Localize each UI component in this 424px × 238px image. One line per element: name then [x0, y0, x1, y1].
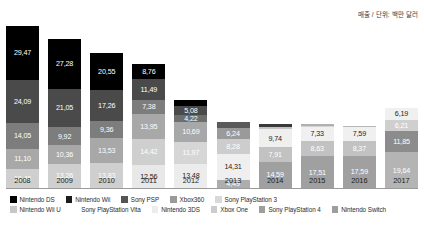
bar-segment: 10,36 — [48, 145, 81, 164]
legend-item[interactable]: Sony PlayStation Vita — [72, 206, 141, 213]
segment-value-label: 27,28 — [56, 60, 73, 67]
x-axis-line — [6, 188, 418, 189]
legend-swatch-icon — [10, 196, 17, 203]
plot-area: 29,4724,0914,0511,1010,4627,2821,059,921… — [6, 22, 418, 188]
segment-value-label: 8,76 — [142, 68, 155, 75]
unit-note: 매출 / 단위: 백만 달러 — [358, 9, 418, 19]
segment-value-label: 10,36 — [56, 151, 73, 158]
bar-column-2008: 29,4724,0914,0511,1010,46 — [6, 22, 39, 188]
bar-segment: 9,36 — [90, 121, 123, 138]
legend-label: Nintendo 3DS — [161, 206, 200, 213]
legend-item[interactable]: Sony PlayStation 4 — [259, 206, 321, 213]
bar-segment: 8,76 — [132, 64, 165, 80]
bar-segment: 4,22 — [174, 115, 207, 123]
legend-item[interactable]: Nintendo Wii — [66, 196, 111, 203]
legend-label: Sony PlayStation 3 — [225, 196, 277, 203]
legend-row-1: Nintendo DSNintendo WiiSony PSPXbox360So… — [10, 196, 418, 203]
bar-segment: 7,59 — [343, 127, 376, 141]
segment-value-label: 14,05 — [14, 132, 31, 139]
x-axis-label-2009: 2009 — [48, 176, 81, 185]
bar-segment: 6,19 — [385, 108, 418, 119]
segment-value-label: 9,36 — [100, 126, 113, 133]
legend-swatch-icon — [152, 206, 159, 213]
legend-label: Sony PSP — [131, 196, 159, 203]
x-axis-labels: 2008200920102011201220132014201520162017 — [6, 176, 418, 185]
bar-column-2016: 7,598,3717,59 — [343, 22, 376, 188]
segment-value-label: 13,95 — [140, 123, 157, 130]
segment-value-label: 7,38 — [142, 103, 155, 110]
legend-swatch-icon — [215, 196, 222, 203]
segment-value-label: 17,51 — [309, 169, 326, 176]
x-axis-label-2016: 2016 — [343, 176, 376, 185]
segment-value-label: 6,19 — [395, 110, 408, 117]
bar-segment: 9,92 — [48, 127, 81, 145]
legend-swatch-icon — [121, 196, 128, 203]
bar-column-2017: 6,196,2111,8519,64 — [385, 22, 418, 188]
bar-segment: 7,33 — [301, 127, 334, 140]
legend-item[interactable]: Nintendo 3DS — [152, 206, 200, 213]
bar-segment: 7,91 — [259, 147, 292, 161]
x-axis-label-2014: 2014 — [259, 176, 292, 185]
segment-value-label: 11,10 — [14, 155, 31, 162]
legend-swatch-icon — [332, 206, 339, 213]
legend-item[interactable]: Xbox360 — [170, 196, 204, 203]
legend-label: Sony PlayStation 4 — [268, 206, 320, 213]
bar-segment: 8,28 — [217, 139, 250, 154]
legend-item[interactable]: Sony PlayStation 3 — [215, 196, 277, 203]
legend-item[interactable]: Nintendo Switch — [332, 206, 386, 213]
legend-item[interactable]: Sony PSP — [121, 196, 159, 203]
legend-label: Nintendo Wii — [75, 196, 110, 203]
x-axis-label-2017: 2017 — [385, 176, 418, 185]
segment-value-label: 19,64 — [393, 167, 410, 174]
bar-segment: 11,10 — [6, 149, 39, 169]
segment-value-label: 8,28 — [226, 143, 239, 150]
segment-value-label: 7,91 — [268, 151, 281, 158]
bar-segment: 13,53 — [90, 138, 123, 163]
legend-label: Xbox One — [220, 206, 248, 213]
segment-value-label: 17,59 — [351, 168, 368, 175]
bar-segment: 10,69 — [174, 122, 207, 141]
legend-item[interactable]: Nintendo Wii U — [10, 206, 61, 213]
legend-row-2: Nintendo Wii USony PlayStation VitaNinte… — [10, 206, 418, 213]
bar-column-2012: 5,084,2210,6911,9713,48 — [174, 22, 207, 188]
legend-swatch-icon — [66, 196, 73, 203]
segment-value-label: 5,08 — [184, 107, 197, 114]
stacked-bar-chart: 매출 / 단위: 백만 달러 29,4724,0914,0511,1010,46… — [0, 0, 424, 238]
bar-segment: 8,63 — [301, 141, 334, 157]
segment-value-label: 4,22 — [184, 115, 197, 122]
segment-value-label: 29,47 — [14, 49, 31, 56]
bar-segment: 17,26 — [90, 90, 123, 121]
bar-segment: 11,97 — [174, 142, 207, 164]
legend-swatch-icon — [72, 206, 79, 213]
x-axis-label-2011: 2011 — [132, 176, 165, 185]
legend-label: Sony PlayStation Vita — [81, 206, 140, 213]
bar-column-2009: 27,2821,059,9210,3613,26 — [48, 22, 81, 188]
legend-item[interactable]: Nintendo DS — [10, 196, 55, 203]
bar-column-2015: 7,338,6317,51 — [301, 22, 334, 188]
segment-value-label: 11,97 — [183, 149, 200, 156]
segment-value-label: 6,24 — [226, 130, 239, 137]
legend-label: Nintendo Switch — [341, 206, 386, 213]
segment-value-label: 8,63 — [311, 145, 324, 152]
bar-segment: 7,38 — [132, 100, 165, 113]
bar-segment: 27,28 — [48, 39, 81, 89]
bar-column-2010: 20,5517,269,3613,5313,83 — [90, 22, 123, 188]
legend-swatch-icon — [211, 206, 218, 213]
legend-swatch-icon — [10, 206, 17, 213]
bar-segment: 14,42 — [132, 139, 165, 165]
bar-segment: 13,95 — [132, 114, 165, 139]
bar-column-2014: 9,747,9114,59 — [259, 22, 292, 188]
segment-value-label: 20,55 — [98, 68, 115, 75]
segment-value-label: 7,59 — [353, 130, 366, 137]
bar-segment: 9,74 — [259, 129, 292, 147]
bar-segment: 6,21 — [385, 120, 418, 131]
bar-segment: 29,47 — [6, 26, 39, 80]
bar-segment: 24,09 — [6, 80, 39, 124]
legend-label: Nintendo DS — [20, 196, 55, 203]
segment-value-label: 6,21 — [395, 122, 408, 129]
bar-segment: 8,37 — [343, 141, 376, 156]
x-axis-label-2012: 2012 — [174, 176, 207, 185]
bar-segment: 5,08 — [174, 106, 207, 115]
legend-item[interactable]: Xbox One — [211, 206, 248, 213]
segment-value-label: 11,49 — [140, 86, 157, 93]
